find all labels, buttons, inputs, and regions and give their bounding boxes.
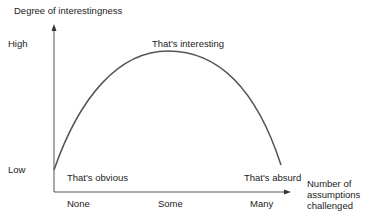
y-tick-high: High [8, 39, 28, 50]
y-axis-label: Degree of interestingness [14, 6, 122, 17]
x-tick-none: None [67, 199, 90, 210]
x-axis-label-line-3: challenged [307, 201, 360, 212]
x-axis-arrow-icon [284, 190, 291, 195]
y-tick-low: Low [8, 165, 25, 176]
x-axis-label: Number of assumptions challenged [307, 179, 360, 212]
interestingness-curve [54, 51, 281, 170]
y-axis-arrow-icon [52, 24, 57, 31]
x-tick-some: Some [158, 199, 183, 210]
annotation-interesting: That's interesting [152, 39, 224, 50]
annotation-obvious: That's obvious [67, 173, 128, 184]
x-tick-many: Many [250, 199, 273, 210]
annotation-absurd: That's absurd [244, 173, 301, 184]
